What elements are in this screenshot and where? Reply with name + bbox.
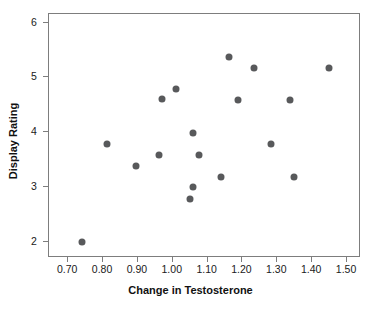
data-point xyxy=(155,152,162,159)
data-point xyxy=(103,141,110,148)
data-point xyxy=(250,65,257,72)
y-axis-tick-label: 4 xyxy=(31,125,37,137)
x-axis-tick xyxy=(276,257,277,262)
scatter-plot-figure: 0.700.800.901.001.101.201.301.401.502345… xyxy=(0,0,381,312)
y-axis-tick xyxy=(43,22,48,23)
data-point xyxy=(234,97,241,104)
y-axis-tick xyxy=(43,131,48,132)
x-axis-tick xyxy=(137,257,138,262)
plot-area xyxy=(48,13,360,257)
x-axis-tick xyxy=(102,257,103,262)
data-points-layer xyxy=(49,14,359,256)
y-axis-tick-label: 3 xyxy=(31,180,37,192)
y-axis-tick-label: 2 xyxy=(31,235,37,247)
data-point xyxy=(79,238,86,245)
x-axis-tick-label: 1.40 xyxy=(301,263,321,275)
x-axis-tick-label: 0.70 xyxy=(57,263,77,275)
y-axis-tick-label: 6 xyxy=(31,16,37,28)
data-point xyxy=(286,97,293,104)
x-axis-tick-label: 1.20 xyxy=(231,263,251,275)
data-point xyxy=(133,163,140,170)
data-point xyxy=(217,174,224,181)
x-axis-tick xyxy=(207,257,208,262)
x-axis-tick xyxy=(311,257,312,262)
x-axis-tick-label: 1.30 xyxy=(266,263,286,275)
y-axis-tick xyxy=(43,186,48,187)
x-axis-tick-label: 1.00 xyxy=(162,263,182,275)
data-point xyxy=(158,96,165,103)
data-point xyxy=(189,130,196,137)
x-axis-tick xyxy=(67,257,68,262)
y-axis-tick xyxy=(43,241,48,242)
y-axis-tick xyxy=(43,76,48,77)
data-point xyxy=(195,152,202,159)
x-axis-tick-label: 0.80 xyxy=(92,263,112,275)
y-axis-tick-label: 5 xyxy=(31,70,37,82)
x-axis-tick-label: 1.10 xyxy=(196,263,216,275)
x-axis-tick-label: 1.50 xyxy=(336,263,356,275)
x-axis-tick-label: 0.90 xyxy=(127,263,147,275)
data-point xyxy=(268,141,275,148)
data-point xyxy=(187,195,194,202)
data-point xyxy=(291,174,298,181)
data-point xyxy=(172,86,179,93)
data-point xyxy=(226,54,233,61)
x-axis-tick xyxy=(346,257,347,262)
data-point xyxy=(189,184,196,191)
x-axis-label: Change in Testosterone xyxy=(0,284,381,296)
x-axis-tick xyxy=(172,257,173,262)
data-point xyxy=(325,65,332,72)
x-axis-tick xyxy=(241,257,242,262)
y-axis-label: Display Rating xyxy=(7,76,19,206)
